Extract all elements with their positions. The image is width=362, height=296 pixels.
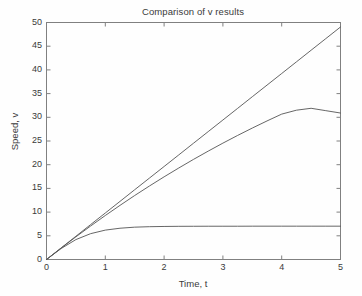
y-tick-label: 45 [2, 41, 42, 50]
series-line-1 [47, 108, 341, 259]
series-line-2 [47, 226, 341, 259]
y-tick-label: 50 [2, 18, 42, 27]
plot-area [0, 0, 362, 296]
y-tick-label: 5 [2, 231, 42, 240]
x-tick-label: 1 [90, 263, 120, 272]
axes-box [47, 23, 341, 260]
series-line-0 [47, 27, 341, 260]
y-tick-label: 35 [2, 89, 42, 98]
x-axis-tick-labels: 012345 [0, 263, 362, 279]
x-tick-label: 2 [149, 263, 179, 272]
y-tick-label: 40 [2, 65, 42, 74]
chart-title: Comparison of v results [46, 6, 340, 17]
y-tick-label: 25 [2, 136, 42, 145]
x-tick-label: 0 [32, 263, 62, 272]
x-tick-label: 5 [326, 263, 356, 272]
y-axis-tick-labels: 05101520253035404550 [0, 0, 42, 296]
x-tick-label: 4 [267, 263, 297, 272]
figure-canvas: Comparison of v results Speed, v Time, t… [0, 0, 362, 296]
y-tick-label: 30 [2, 112, 42, 121]
y-tick-label: 10 [2, 207, 42, 216]
x-tick-label: 3 [208, 263, 238, 272]
y-tick-label: 20 [2, 160, 42, 169]
axis-ticks [47, 23, 341, 260]
axes-frame [47, 23, 341, 260]
data-series-group [47, 27, 341, 260]
y-tick-label: 15 [2, 183, 42, 192]
x-axis-label: Time, t [46, 278, 340, 289]
